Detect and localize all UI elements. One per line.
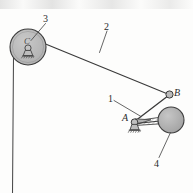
leader-line-4 — [159, 133, 171, 158]
mechanism-figure: 3 2 1 4 B A C — [0, 0, 193, 193]
leader-line-2 — [100, 31, 108, 53]
pulley-support-bracket — [23, 50, 33, 55]
label-joint-b: B — [174, 88, 180, 98]
disc-4-body — [158, 107, 184, 133]
label-pulley-center-c: C — [24, 37, 30, 46]
cable-link-2-segment — [37, 41, 169, 95]
label-pulley-3: 3 — [43, 14, 48, 24]
pin-support-a-bracket — [130, 124, 139, 129]
label-disc-4: 4 — [154, 159, 159, 169]
mechanism-drawing-canvas — [0, 0, 193, 193]
label-link-2: 2 — [104, 22, 109, 32]
pin-joint-b — [166, 91, 173, 98]
label-link-1: 1 — [108, 94, 113, 104]
pin-support-a-ground-hatch — [128, 131, 140, 133]
label-joint-a: A — [122, 113, 128, 123]
cable-vertical-segment — [13, 58, 14, 193]
